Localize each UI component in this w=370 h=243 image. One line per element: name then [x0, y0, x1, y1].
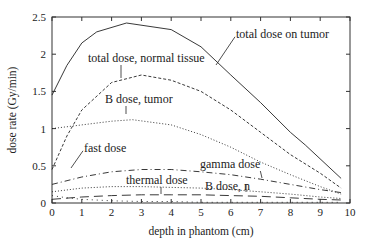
annotation-total-dose-normal-tissue: total dose, normal tissue [88, 51, 205, 78]
annotation-b-dose-tumor: B dose, tumor [105, 92, 173, 114]
x-tick-label: 10 [345, 206, 357, 218]
x-tick-label: 9 [317, 206, 323, 218]
series-line-b-dose-tumor [52, 120, 341, 194]
series-line-gamma-dose [52, 170, 341, 193]
x-tick-label: 7 [258, 206, 264, 218]
annotation-label: B dose, n [205, 179, 250, 193]
annotation-label: fast dose [84, 141, 126, 155]
annotation-leader-line [216, 37, 235, 65]
x-axis-label: depth in phantom (cm) [148, 225, 253, 238]
y-tick-label: 1 [41, 123, 47, 135]
y-tick-label: 2 [41, 48, 47, 60]
annotation-leader-line [71, 151, 83, 168]
annotation-leader-line [260, 171, 262, 178]
annotation-fast-dose: fast dose [71, 141, 126, 168]
dose-rate-chart: 012345678910 00.511.522.5 total dose on … [0, 0, 370, 243]
annotation-thermal-dose: thermal dose [126, 173, 188, 194]
annotation-gamma-dose: gamma dose [200, 157, 262, 178]
series-line-thermal-dose [52, 195, 341, 200]
x-tick-label: 0 [49, 206, 55, 218]
x-tick-label: 3 [139, 206, 145, 218]
x-tick-label: 4 [168, 206, 174, 218]
x-tick-label: 6 [228, 206, 234, 218]
x-tick-label: 1 [79, 206, 85, 218]
annotation-b-dose-n: B dose, n [205, 179, 250, 193]
annotation-label: total dose, normal tissue [88, 51, 205, 65]
annotation-layer: total dose on tumortotal dose, normal ti… [71, 27, 329, 194]
annotation-label: B dose, tumor [105, 92, 173, 106]
y-tick-label: 0 [41, 197, 47, 209]
x-tick-label: 8 [288, 206, 294, 218]
y-tick-label: 1.5 [32, 85, 46, 97]
x-tick-label: 2 [109, 206, 115, 218]
series-layer [52, 23, 341, 202]
x-tick-label: 5 [198, 206, 204, 218]
plot-frame [52, 17, 350, 203]
y-tick-label: 2.5 [32, 11, 46, 23]
annotation-total-dose-on-tumor: total dose on tumor [216, 27, 329, 65]
series-line-total-dose-on-tumor [52, 23, 341, 178]
y-tick-label: 0.5 [32, 160, 46, 172]
annotation-label: gamma dose [200, 157, 260, 171]
annotation-label: thermal dose [126, 173, 188, 187]
annotation-label: total dose on tumor [236, 27, 329, 41]
y-axis-label: dose rate (Gy/min) [6, 66, 19, 153]
